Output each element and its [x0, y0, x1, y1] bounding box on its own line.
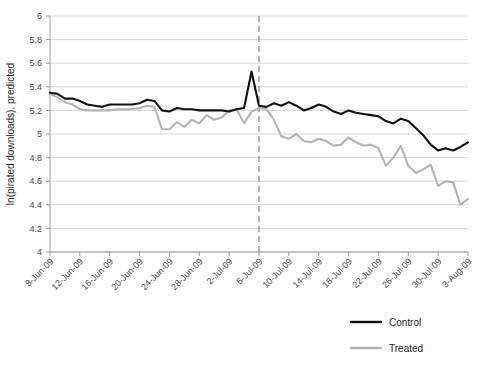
y-tick-label: 4 — [37, 247, 42, 257]
y-axis-title: ln(pirated downloads), predicted — [5, 63, 16, 205]
x-tick-label: 10-Jul-09 — [261, 256, 295, 290]
y-tick-label: 6 — [37, 11, 42, 21]
y-tick-label: 4.6 — [29, 176, 42, 186]
y-tickmarks — [46, 16, 50, 252]
x-axis-group: 8-Jun-0912-Jun-0916-Jun-0920-Jun-0924-Ju… — [23, 252, 473, 292]
x-tick-label: 28-Jun-09 — [169, 256, 205, 292]
x-tick-label: 3-Aug-09 — [440, 256, 473, 289]
x-tick-label: 22-Jul-09 — [350, 256, 384, 290]
y-tick-label: 4.4 — [29, 200, 42, 210]
x-tick-label: 6-Jul-09 — [234, 256, 264, 286]
y-tick-label: 5.4 — [29, 82, 42, 92]
y-tick-label: 5 — [37, 129, 42, 139]
x-tick-label: 18-Jul-09 — [320, 256, 354, 290]
legend-label-control: Control — [389, 317, 421, 328]
y-axis-group: 65.85.65.45.254.84.64.44.24 — [29, 11, 50, 257]
x-tick-label: 26-Jul-09 — [380, 256, 414, 290]
x-tickmarks — [50, 252, 468, 256]
y-tick-label: 5.8 — [29, 35, 42, 45]
y-tick-label: 4.2 — [29, 224, 42, 234]
x-tick-label: 30-Jul-09 — [410, 256, 444, 290]
y-tick-label: 5.6 — [29, 58, 42, 68]
legend: Control Treated — [350, 317, 423, 354]
legend-label-treated: Treated — [389, 343, 423, 354]
chart-container: 65.85.65.45.254.84.64.44.24 8-Jun-0912-J… — [0, 0, 484, 365]
y-tick-label: 5.2 — [29, 106, 42, 116]
line-chart: 65.85.65.45.254.84.64.44.24 8-Jun-0912-J… — [0, 0, 484, 365]
y-tick-label: 4.8 — [29, 153, 42, 163]
y-tick-labels: 65.85.65.45.254.84.64.44.24 — [29, 11, 42, 257]
x-tick-label: 14-Jul-09 — [291, 256, 325, 290]
x-tick-label: 2-Jul-09 — [204, 256, 234, 286]
x-tick-labels: 8-Jun-0912-Jun-0916-Jun-0920-Jun-0924-Ju… — [23, 256, 473, 292]
